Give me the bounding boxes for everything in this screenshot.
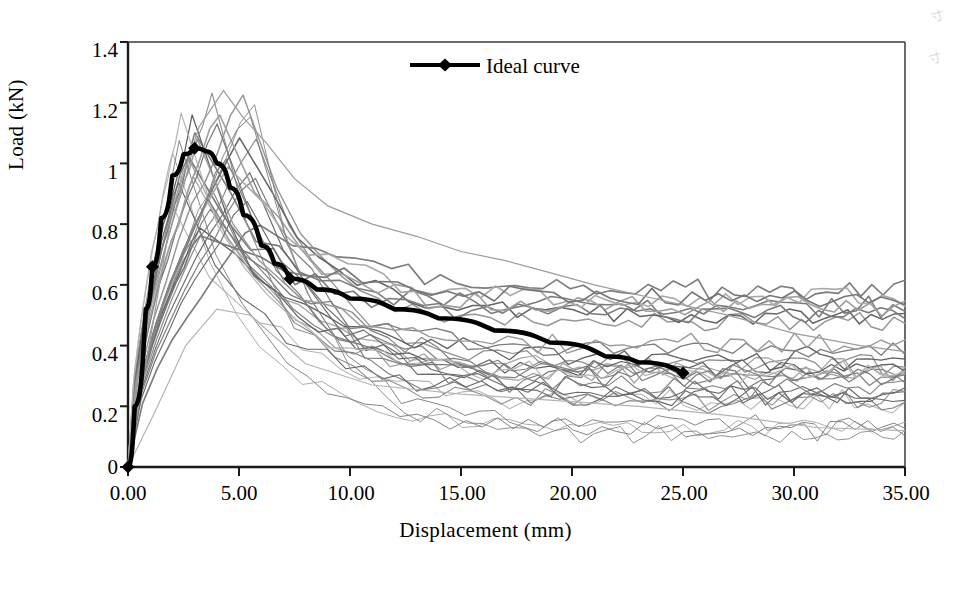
diamond-marker-icon: [438, 59, 452, 72]
legend-sample: [410, 59, 480, 72]
axis-ticks: [120, 42, 905, 476]
plot-canvas: [0, 0, 971, 600]
chart-figure: Load (kN) 1.4 1.2 1 0.8 0.6 0.4 0.2 0 0.…: [0, 0, 971, 600]
data-curves-group: [128, 91, 905, 467]
